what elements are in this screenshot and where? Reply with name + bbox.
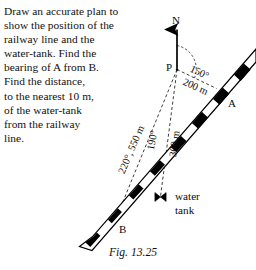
figure-caption: Fig. 13.25 [0,246,256,259]
line-p-to-a [177,70,217,89]
water-tank-line-2: tank [175,204,200,218]
point-p-dot [176,68,179,71]
question-line: from the railway [4,117,124,131]
question-line: Find the distance, [4,74,124,88]
bearing-arcs [177,46,196,79]
label-bearing-pt: 190° [145,130,159,151]
question-line: of the water-tank [4,103,124,117]
station-points [176,68,179,71]
figure-page: Draw an accurate plan to show the positi… [0,0,256,270]
question-line: line. [4,131,124,145]
question-line: show the position of the [4,18,124,32]
figure-caption-text: Fig. 13.25 [99,246,157,259]
question-line: bearing of A from B. [4,60,124,74]
water-tank-marker [155,193,166,202]
water-tank-line-1: water [175,190,200,204]
question-text: Draw an accurate plan to show the positi… [4,4,124,145]
question-line: Draw an accurate plan to [4,4,124,18]
question-line: to the nearest 10 m, [4,89,124,103]
line-p-to-tank [161,70,178,197]
question-line: water-tank. Find the [4,46,124,60]
label-pb-separator: , [124,148,136,157]
label-bearing-pb: 220° [116,153,134,175]
survey-lines [113,70,217,227]
label-north: N [172,14,180,26]
arc-150 [177,46,196,79]
label-point-a: A [228,97,236,109]
label-distance-pt: 300 m [167,130,182,158]
label-point-p: P [166,61,172,73]
label-point-b: B [119,223,126,235]
label-water-tank: water tank [175,190,200,217]
water-tank-icon [155,193,166,202]
question-line: railway line and the [4,32,124,46]
label-bearing-pa: 150° [188,63,211,81]
label-distance-pb: 550 m [126,124,146,152]
label-distance-pa: 200 m [181,76,209,97]
